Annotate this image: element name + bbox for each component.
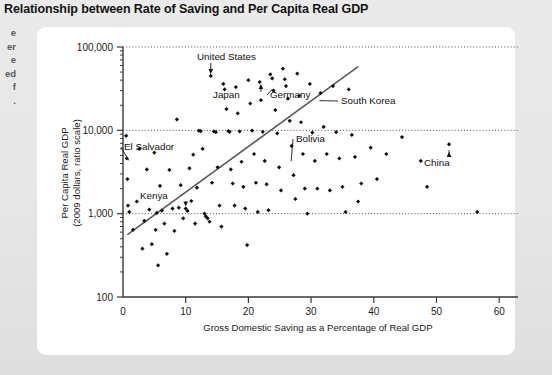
x-tick-label: 40 [368,306,380,317]
y-axis-ticks: 1001,00010,000100,000 [77,42,123,303]
data-point [263,159,267,163]
data-point [325,152,329,156]
data-point [126,203,130,207]
data-point [281,67,285,71]
data-point [299,120,303,124]
data-point [150,242,154,246]
data-point [189,199,193,203]
annotation-label: South Korea [341,95,396,106]
data-point [288,119,292,123]
data-point [266,208,270,212]
data-point [284,84,288,88]
y-tick-label: 100 [96,292,113,303]
data-point [229,167,233,171]
data-point [246,78,250,82]
annotation-arrowhead [208,69,213,74]
annotation-label: Kenya [140,190,168,201]
data-point [209,74,213,78]
data-point [425,185,429,189]
data-point [356,199,360,203]
data-point [245,243,249,247]
data-point [154,228,158,232]
y-axis-title-line1: Per Capita Real GDP [59,127,70,218]
data-point [252,152,256,156]
data-point [315,186,319,190]
data-point [172,229,176,233]
data-point [187,166,191,170]
x-tick-label: 10 [180,306,192,317]
data-point [293,197,297,201]
x-tick-label: 60 [494,306,506,317]
data-point [340,185,344,189]
data-point [241,185,245,189]
data-point [250,129,254,133]
data-point [177,206,181,210]
data-point [295,71,299,75]
data-point [217,203,221,207]
data-point [305,212,309,216]
data-point [195,186,199,190]
data-point [125,177,129,181]
data-point [243,207,247,211]
data-point [162,221,166,225]
x-axis-title: Gross Domestic Saving as a Percentage of… [203,322,432,333]
data-point [127,210,131,214]
data-point [400,135,404,139]
annotations: United StatesJapanGermanySouth KoreaEl S… [121,51,451,207]
data-point [239,160,243,164]
data-point [248,101,252,105]
annotation-label: Japan [213,89,240,100]
data-point [303,186,307,190]
data-point [175,117,179,121]
data-point [291,173,295,177]
annotation-arrowhead [447,152,452,157]
data-point [277,165,281,169]
data-point [179,183,183,187]
annotation-leader [291,139,293,161]
annotation-arrowhead [183,202,188,207]
annotation-label: China [424,157,450,168]
data-point [142,219,146,223]
data-point [124,134,128,138]
data-point [350,133,354,137]
data-point [273,108,277,112]
data-point [210,181,214,185]
data-point [201,147,205,151]
data-point [369,146,373,150]
y-tick-label: 1,000 [88,208,113,219]
data-point [275,131,279,135]
annotation-label: Bolivia [296,133,325,144]
y-axis-title-line2: (2009 dollars, ratio scale) [71,119,82,227]
x-tick-label: 20 [243,306,255,317]
data-point [259,98,263,102]
data-point [167,168,171,172]
data-point [359,181,363,185]
annotation-label: El Salvador [124,141,175,152]
data-point [254,181,258,185]
data-point [261,130,265,134]
data-point [419,159,423,163]
data-point [290,144,294,148]
data-point [170,207,174,211]
data-point [135,199,139,203]
data-point [270,76,274,80]
data-point [221,82,225,86]
data-point [140,247,144,251]
data-point [475,210,479,214]
x-tick-label: 30 [306,306,318,317]
data-point [264,182,268,186]
x-tick-label: 50 [431,306,443,317]
data-point [322,125,326,129]
data-point [313,159,317,163]
data-point [231,181,235,185]
annotation-arrowhead [259,84,264,89]
annotation-label: Germany [270,89,310,100]
axes [123,47,518,297]
data-point [283,77,287,81]
x-axis-ticks: 0102030405060 [120,297,505,317]
data-point [301,152,305,156]
data-point [353,155,357,159]
data-point [233,203,237,207]
data-point [279,188,283,192]
gridlines [123,47,518,214]
